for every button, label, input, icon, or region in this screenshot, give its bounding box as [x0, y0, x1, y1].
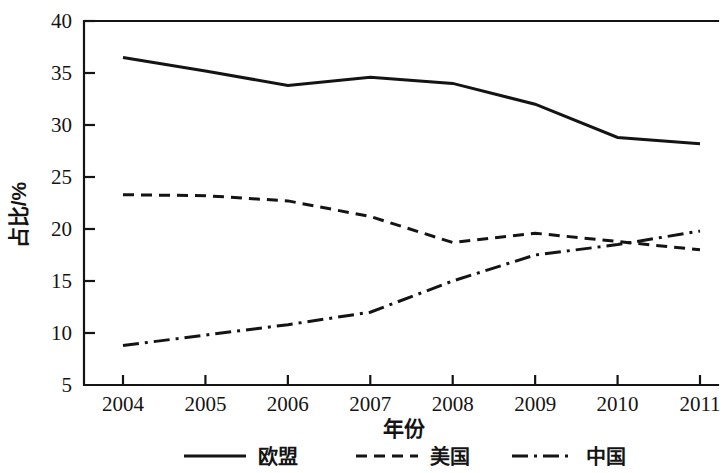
x-tick-label: 2004 — [102, 392, 145, 416]
y-tick-label: 20 — [51, 217, 72, 241]
y-tick-label: 25 — [51, 165, 72, 189]
y-axis-title: 占比/% — [7, 181, 30, 248]
line-chart: 510152025303540 200420052006200720082009… — [0, 0, 722, 473]
x-axis-tick-labels: 20042005200620072008200920102011 — [102, 392, 721, 416]
series-layer — [123, 57, 700, 345]
legend-label-2: 中国 — [586, 445, 626, 468]
y-tick-label: 35 — [51, 61, 72, 85]
series-line-1 — [123, 195, 700, 250]
x-tick-label: 2009 — [514, 392, 556, 416]
axis-frame — [84, 21, 718, 385]
y-tick-label: 5 — [62, 373, 73, 397]
series-line-0 — [123, 57, 700, 143]
chart-canvas: 510152025303540 200420052006200720082009… — [0, 0, 722, 473]
chart-legend: 欧盟美国中国 — [184, 445, 626, 468]
x-tick-label: 2005 — [184, 392, 226, 416]
x-tick-label: 2008 — [432, 392, 474, 416]
y-tick-label: 40 — [51, 9, 72, 33]
y-tick-label: 30 — [51, 113, 72, 137]
x-axis-title: 年份 — [383, 417, 426, 440]
legend-label-0: 欧盟 — [258, 445, 298, 468]
y-tick-label: 10 — [51, 321, 72, 345]
x-tick-label: 2011 — [679, 392, 720, 416]
series-line-2 — [123, 231, 700, 345]
y-tick-label: 15 — [51, 269, 72, 293]
legend-label-1: 美国 — [430, 445, 470, 468]
x-tick-label: 2010 — [597, 392, 639, 416]
y-axis-ticks — [84, 21, 95, 333]
x-axis-ticks — [123, 375, 700, 385]
x-tick-label: 2006 — [267, 392, 309, 416]
x-tick-label: 2007 — [349, 392, 391, 416]
y-axis-tick-labels: 510152025303540 — [51, 9, 72, 397]
